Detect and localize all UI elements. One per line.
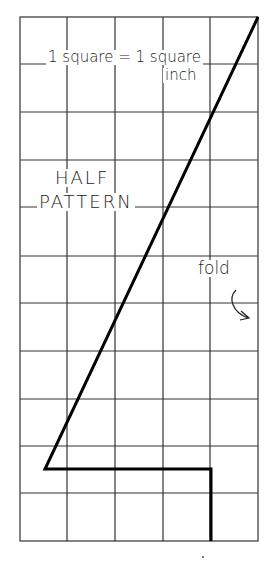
fold-label: fold [195,260,233,277]
fold-arrow-icon [232,290,249,320]
title-line2: PATTERN [37,193,135,211]
scale-label-line2: inch [163,68,198,83]
scale-label-line1: 1 square = 1 square [46,50,203,65]
pattern-outline [45,17,258,541]
pattern-diagram [0,0,274,561]
title-line1: HALF [53,169,111,187]
stray-dot [202,556,204,558]
